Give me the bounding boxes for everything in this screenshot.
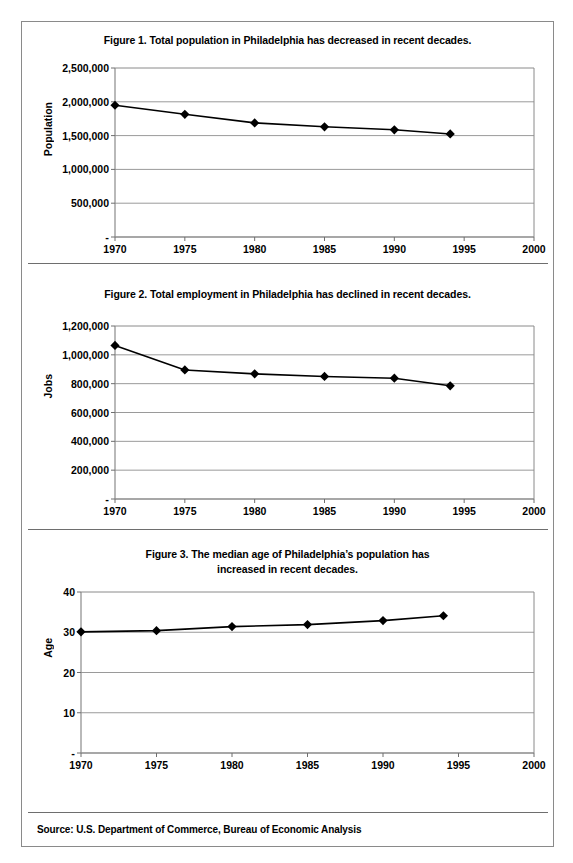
x-tick-label: 1975 bbox=[173, 243, 196, 255]
y-tick-label: 1,000,000 bbox=[62, 163, 109, 175]
data-point-marker bbox=[439, 611, 448, 620]
data-point-marker bbox=[152, 626, 161, 635]
figure-2-chart: -200,000400,000600,000800,0001,000,0001,… bbox=[22, 264, 555, 529]
y-axis-title: Age bbox=[42, 638, 54, 658]
y-tick-label: 400,000 bbox=[71, 435, 109, 447]
data-point-marker bbox=[227, 622, 236, 631]
y-axis-title: Jobs bbox=[42, 374, 54, 399]
y-tick-label: 40 bbox=[63, 586, 75, 598]
data-point-marker bbox=[250, 118, 259, 127]
x-tick-label: 1995 bbox=[452, 505, 475, 517]
data-point-marker bbox=[320, 122, 329, 131]
figure-3-panel: Figure 3. The median age of Philadelphia… bbox=[22, 530, 553, 812]
y-tick-label: 2,500,000 bbox=[62, 62, 109, 74]
x-tick-label: 1975 bbox=[173, 505, 196, 517]
y-tick-label: 20 bbox=[63, 667, 75, 679]
x-tick-label: 1995 bbox=[452, 243, 475, 255]
plot-area bbox=[22, 530, 555, 812]
y-tick-label: - bbox=[71, 747, 75, 759]
y-tick-label: - bbox=[105, 231, 109, 243]
x-tick-label: 2000 bbox=[522, 759, 545, 771]
x-tick-label: 1970 bbox=[69, 759, 92, 771]
series-line bbox=[81, 616, 443, 632]
y-tick-label: 2,000,000 bbox=[62, 96, 109, 108]
data-point-marker bbox=[446, 129, 455, 138]
y-tick-label: 500,000 bbox=[71, 197, 109, 209]
figure-1-panel: Figure 1. Total population in Philadelph… bbox=[22, 22, 553, 263]
y-tick-label: 800,000 bbox=[71, 378, 109, 390]
x-tick-label: 1980 bbox=[243, 505, 266, 517]
y-tick-label: 30 bbox=[63, 626, 75, 638]
data-point-marker bbox=[320, 372, 329, 381]
plot-area bbox=[22, 22, 555, 263]
x-tick-label: 1985 bbox=[313, 505, 336, 517]
data-point-marker bbox=[390, 374, 399, 383]
y-tick-label: 200,000 bbox=[71, 464, 109, 476]
data-point-marker bbox=[250, 369, 259, 378]
y-tick-label: 1,200,000 bbox=[62, 320, 109, 332]
x-tick-label: 1990 bbox=[383, 505, 406, 517]
x-tick-label: 1980 bbox=[220, 759, 243, 771]
figure-3-chart: -102030401970197519801985199019952000Age bbox=[22, 530, 555, 812]
plot-area bbox=[22, 264, 555, 529]
x-tick-label: 1990 bbox=[371, 759, 394, 771]
x-tick-label: 1980 bbox=[243, 243, 266, 255]
x-tick-label: 1985 bbox=[296, 759, 319, 771]
series-line bbox=[115, 345, 450, 385]
data-point-marker bbox=[76, 627, 85, 636]
panel-divider-3 bbox=[28, 812, 548, 813]
figure-2-panel: Figure 2. Total employment in Philadelph… bbox=[22, 264, 553, 529]
data-point-marker bbox=[378, 616, 387, 625]
source-note: Source: U.S. Department of Commerce, Bur… bbox=[37, 824, 361, 835]
x-tick-label: 1995 bbox=[447, 759, 470, 771]
x-tick-label: 1975 bbox=[145, 759, 168, 771]
data-point-marker bbox=[180, 365, 189, 374]
x-tick-label: 1970 bbox=[103, 243, 126, 255]
data-point-marker bbox=[303, 620, 312, 629]
document-frame: Figure 1. Total population in Philadelph… bbox=[21, 21, 554, 847]
data-point-marker bbox=[390, 125, 399, 134]
x-tick-label: 2000 bbox=[522, 243, 545, 255]
y-tick-label: 10 bbox=[63, 707, 75, 719]
figure-1-chart: -500,0001,000,0001,500,0002,000,0002,500… bbox=[22, 22, 555, 263]
x-tick-label: 1985 bbox=[313, 243, 336, 255]
x-tick-label: 1990 bbox=[383, 243, 406, 255]
y-tick-label: 1,500,000 bbox=[62, 130, 109, 142]
data-point-marker bbox=[446, 381, 455, 390]
x-tick-label: 2000 bbox=[522, 505, 545, 517]
series-line bbox=[115, 105, 450, 134]
data-point-marker bbox=[180, 110, 189, 119]
y-axis-title: Population bbox=[42, 102, 54, 156]
data-point-marker bbox=[110, 341, 119, 350]
x-tick-label: 1970 bbox=[103, 505, 126, 517]
y-tick-label: - bbox=[105, 493, 109, 505]
y-tick-label: 1,000,000 bbox=[62, 349, 109, 361]
y-tick-label: 600,000 bbox=[71, 407, 109, 419]
